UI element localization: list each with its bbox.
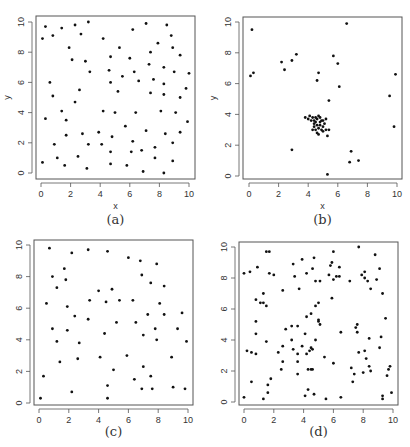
x-tick-label: 6 (331, 415, 336, 425)
data-point (155, 263, 158, 266)
data-point (88, 299, 91, 302)
data-point (313, 256, 316, 259)
data-point (125, 164, 128, 167)
data-point (319, 280, 322, 283)
data-point (384, 317, 387, 320)
data-point (389, 365, 392, 368)
data-points (39, 247, 188, 400)
data-point (290, 339, 293, 342)
x-tick-label: 0 (36, 415, 41, 425)
data-point (74, 24, 77, 27)
x-tick-label: 0 (246, 189, 251, 199)
data-points (41, 21, 190, 175)
data-point (380, 336, 383, 339)
data-point (314, 339, 317, 342)
data-point (250, 380, 253, 383)
x-tick-label: 6 (126, 415, 131, 425)
data-point (281, 360, 284, 363)
data-point (292, 263, 295, 266)
data-point (256, 266, 259, 269)
data-point (170, 34, 173, 37)
data-point (283, 68, 286, 71)
data-point (338, 85, 341, 88)
y-tick-label: 0 (223, 173, 233, 178)
data-point (311, 348, 314, 351)
data-point (336, 62, 339, 65)
x-tick-label: 4 (306, 189, 311, 199)
data-point (243, 272, 246, 275)
data-point (162, 172, 165, 175)
data-point (117, 90, 120, 93)
data-point (381, 394, 384, 397)
data-point (60, 110, 63, 113)
data-point (163, 285, 166, 288)
y-tick-label: 8 (219, 275, 229, 280)
data-point (146, 313, 149, 316)
data-point (284, 328, 287, 331)
x-tick-label: 0 (241, 415, 246, 425)
data-point (154, 146, 157, 149)
data-point (317, 301, 320, 304)
data-point (317, 71, 320, 74)
data-point (70, 252, 73, 255)
data-point (179, 54, 182, 57)
data-point (174, 111, 177, 114)
data-point (354, 326, 357, 329)
data-point (363, 277, 366, 280)
data-point (357, 246, 360, 249)
x-tick-label: 4 (98, 189, 103, 199)
panel-caption: (b) (313, 212, 331, 227)
data-point (369, 370, 372, 373)
x-axis: 0246810 (246, 183, 402, 199)
data-point (319, 124, 322, 127)
data-point (163, 313, 166, 316)
data-point (249, 270, 252, 273)
data-point (145, 129, 148, 132)
data-point (308, 115, 311, 118)
data-point (348, 161, 351, 164)
x-tick-label: 8 (156, 415, 161, 425)
data-point (53, 143, 56, 146)
data-point (362, 371, 365, 374)
data-point (368, 337, 371, 340)
x-tick-label: 0 (38, 189, 43, 199)
data-point (44, 25, 47, 28)
x-tick-label: 2 (68, 189, 73, 199)
y-tick-label: 0 (219, 399, 229, 404)
data-point (328, 99, 331, 102)
data-point (246, 349, 249, 352)
data-point (296, 360, 299, 363)
data-point (301, 345, 304, 348)
data-point (106, 250, 109, 253)
data-point (63, 164, 66, 167)
data-point (281, 345, 284, 348)
data-point (142, 170, 145, 173)
y-tick-label: 10 (219, 242, 229, 252)
data-point (255, 320, 258, 323)
data-point (76, 357, 79, 360)
data-point (56, 157, 59, 160)
data-point (394, 73, 397, 76)
data-point (308, 349, 311, 352)
data-point (281, 289, 284, 292)
y-tick-label: 6 (223, 81, 233, 86)
data-point (325, 128, 328, 131)
data-point (317, 127, 320, 130)
data-point (311, 368, 314, 371)
data-point (313, 119, 316, 122)
data-point (262, 292, 265, 295)
y-tick-label: 2 (16, 140, 26, 145)
data-point (134, 321, 137, 324)
data-point (368, 365, 371, 368)
y-tick-label: 4 (16, 110, 26, 115)
data-point (363, 349, 366, 352)
data-point (60, 27, 63, 30)
data-points (249, 22, 397, 176)
panel-a: 02468100246810xy(a) (2, 16, 195, 227)
data-point (55, 286, 58, 289)
data-point (81, 132, 84, 135)
data-point (338, 275, 341, 278)
data-point (157, 42, 160, 45)
data-point (159, 110, 162, 113)
data-point (126, 354, 129, 357)
